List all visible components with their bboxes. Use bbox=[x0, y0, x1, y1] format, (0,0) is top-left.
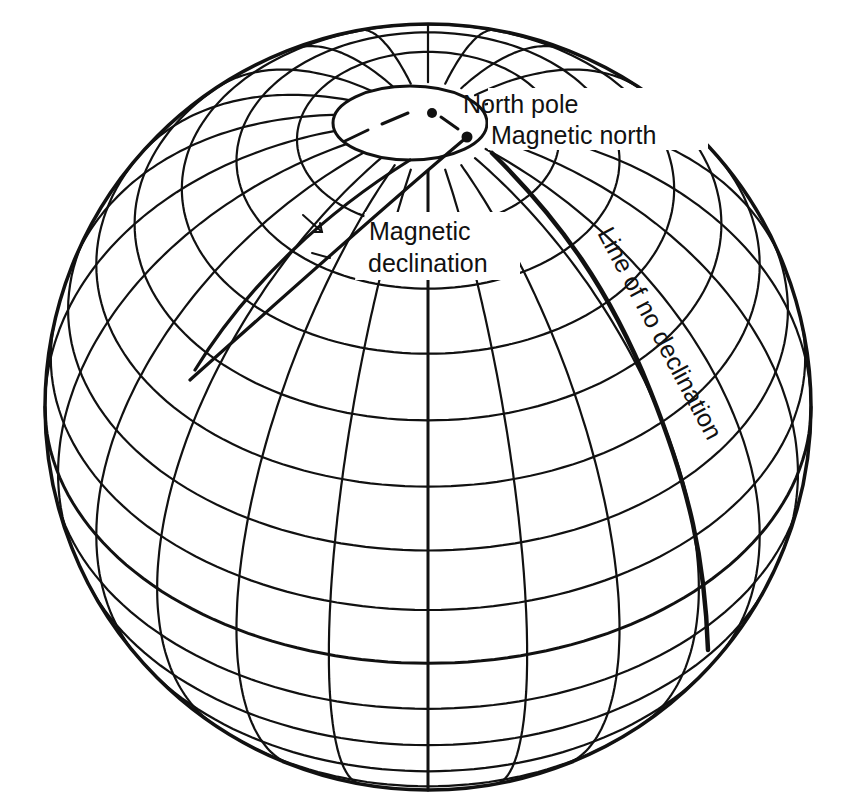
meridian-line bbox=[461, 46, 566, 88]
magnetic-north-label: Magnetic north bbox=[491, 121, 656, 149]
meridian-line bbox=[290, 46, 395, 88]
north-pole-dot bbox=[427, 108, 437, 118]
magnetic-declination-label-1: Magnetic bbox=[369, 217, 470, 245]
globe-diagram: North pole Magnetic north Magnetic decli… bbox=[0, 0, 850, 812]
north-pole-label: North pole bbox=[463, 90, 578, 118]
meridian-line bbox=[96, 149, 370, 657]
meridian-line bbox=[45, 127, 362, 407]
meridian-line bbox=[495, 127, 812, 407]
magnetic-north-dot bbox=[462, 132, 473, 143]
globe-figure: North pole Magnetic north Magnetic decli… bbox=[0, 0, 850, 812]
magnetic-declination-label-2: declination bbox=[368, 249, 488, 277]
meridian-line bbox=[486, 149, 760, 657]
